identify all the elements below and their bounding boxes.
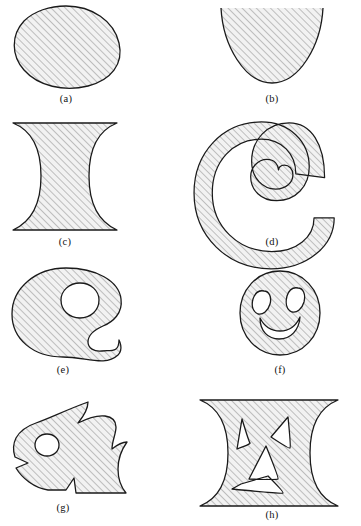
oval-blob-region: [14, 6, 120, 88]
panel-label-f: (f): [274, 364, 285, 376]
panel-e: (e): [12, 268, 121, 376]
panel-label-b: (b): [266, 93, 279, 105]
regions-figure: (a) (b) (c) (d) (e) (f) (g: [0, 0, 361, 526]
hourglass-face-region: [200, 400, 338, 506]
panel-label-g: (g): [57, 502, 70, 514]
panel-label-c: (c): [59, 236, 72, 248]
panel-c: (c): [13, 123, 117, 248]
panel-label-h: (h): [266, 509, 279, 521]
panel-b: (b): [221, 4, 323, 105]
parabolic-region: [221, 4, 323, 83]
panel-label-e: (e): [57, 364, 70, 376]
hourglass-region: [13, 123, 117, 230]
panel-label-a: (a): [60, 93, 73, 105]
spiral-region: [194, 122, 334, 269]
fish-head-region: [14, 402, 127, 493]
panel-h: (h): [200, 400, 338, 521]
panel-a: (a): [14, 6, 120, 105]
panel-label-d: (d): [266, 236, 279, 248]
palette-region: [12, 268, 121, 361]
panel-g: (g): [14, 402, 127, 514]
panel-d: (d): [194, 122, 334, 269]
smiley-face-region-group: (f): [240, 271, 320, 376]
figure-container: (a) (b) (c) (d) (e) (f) (g: [0, 0, 361, 526]
smiley-face-region: [240, 271, 320, 355]
